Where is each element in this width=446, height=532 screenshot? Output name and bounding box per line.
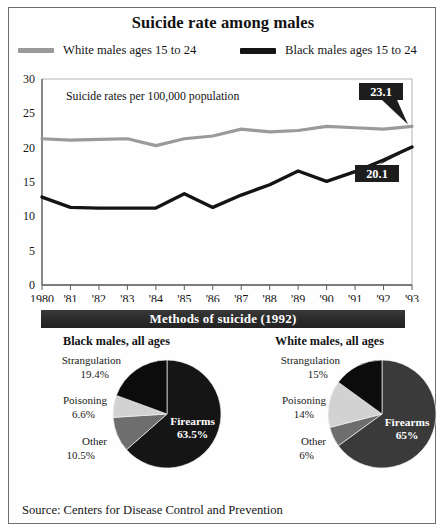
pie-chart-white-males: Firearms65%Strangulation15%Poisoning14%O… xyxy=(270,352,446,484)
series-line-white-males xyxy=(42,126,412,145)
x-axis-tick-81: '81 xyxy=(63,292,77,302)
pie-title-white-males: White males, all ages xyxy=(223,334,436,349)
pie-slice-value-firearms: 63.5% xyxy=(176,428,207,440)
callout-black-20-1: 20.1 xyxy=(355,151,406,182)
pie-title-black-males: Black males, all ages xyxy=(10,334,223,349)
line-chart: 0510152025301980'81'82'83'84'85'86'87'88… xyxy=(14,70,432,302)
pie-outside-value-strangulation: 15% xyxy=(307,368,327,380)
pie-slice-label-firearms: Firearms xyxy=(384,416,429,428)
y-axis-tick-5: 5 xyxy=(29,244,35,258)
x-axis-tick-83: '83 xyxy=(120,292,134,302)
legend-swatch-icon-white xyxy=(18,48,54,53)
y-axis-tick-15: 15 xyxy=(23,175,35,189)
legend-label-black: Black males ages 15 to 24 xyxy=(285,43,417,58)
pie-outside-label-strangulation: Strangulation xyxy=(61,354,121,366)
pie-outside-value-other: 10.5% xyxy=(66,449,94,461)
pie-outside-value-poisoning: 14% xyxy=(293,408,313,420)
x-axis-tick-87: '87 xyxy=(234,292,248,302)
line-chart-svg: 0510152025301980'81'82'83'84'85'86'87'88… xyxy=(14,70,432,302)
pie-outside-label-poisoning: Poisoning xyxy=(62,394,107,406)
chart-page: Suicide rate among males White males age… xyxy=(0,0,446,532)
pie-outside-value-strangulation: 19.4% xyxy=(80,368,108,380)
pie-outside-label-strangulation: Strangulation xyxy=(280,354,340,366)
pie-block-black-males: Black males, all ages Firearms63.5%Stran… xyxy=(10,334,223,492)
pie-outside-label-other: Other xyxy=(300,435,325,447)
x-axis-tick-84: '84 xyxy=(149,292,163,302)
callout-white-23-1: 23.1 xyxy=(359,83,408,124)
pie-outside-label-other: Other xyxy=(81,435,106,447)
x-axis-tick-88: '88 xyxy=(263,292,277,302)
source-text: Source: Centers for Disease Control and … xyxy=(22,503,283,518)
x-axis-tick-91: '91 xyxy=(348,292,362,302)
pie-block-white-males: White males, all ages Firearms65%Strangu… xyxy=(223,334,436,492)
page-title: Suicide rate among males xyxy=(0,13,446,33)
pie-slice-value-firearms: 65% xyxy=(395,429,418,441)
methods-of-suicide-banner: Methods of suicide (1992) xyxy=(41,310,405,328)
y-axis-tick-10: 10 xyxy=(23,209,35,223)
legend-item-black-males: Black males ages 15 to 24 xyxy=(240,43,417,58)
pie-outside-label-poisoning: Poisoning xyxy=(281,394,326,406)
y-axis-tick-30: 30 xyxy=(23,72,35,86)
legend-swatch-icon-black xyxy=(240,48,276,54)
pie-outside-value-poisoning: 6.6% xyxy=(72,408,95,420)
legend-item-white-males: White males ages 15 to 24 xyxy=(18,43,196,58)
callout-white-23-1-value: 23.1 xyxy=(370,85,392,99)
x-axis-tick-90: '90 xyxy=(320,292,334,302)
x-axis-tick-89: '89 xyxy=(291,292,305,302)
pie-outside-value-other: 6% xyxy=(299,449,314,461)
x-axis-tick-85: '85 xyxy=(177,292,191,302)
plot-note: Suicide rates per 100,000 population xyxy=(66,89,239,103)
y-axis-tick-0: 0 xyxy=(29,278,35,292)
chart-legend: White males ages 15 to 24 Black males ag… xyxy=(18,43,428,61)
pie-slice-label-firearms: Firearms xyxy=(170,415,215,427)
x-axis-tick-92: '92 xyxy=(376,292,390,302)
x-axis-tick-86: '86 xyxy=(206,292,220,302)
legend-label-white: White males ages 15 to 24 xyxy=(63,43,196,58)
x-axis-tick-93: '93 xyxy=(405,292,419,302)
x-axis-tick-82: '82 xyxy=(92,292,106,302)
y-axis-tick-25: 25 xyxy=(23,106,35,120)
pie-chart-black-males: Firearms63.5%Strangulation19.4%Poisoning… xyxy=(55,352,235,484)
callout-black-20-1-value: 20.1 xyxy=(366,167,388,181)
y-axis-tick-20: 20 xyxy=(23,141,35,155)
x-axis-tick-1980: 1980 xyxy=(30,292,54,302)
